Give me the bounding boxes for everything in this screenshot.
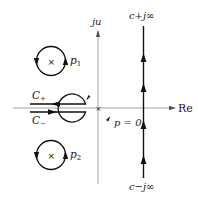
imag-axis-arrow-icon [96, 30, 100, 37]
imaginary-axis-label: ju [90, 16, 102, 27]
ccw-arrow-icon [106, 116, 111, 122]
pole-p1-label: p1 [70, 54, 81, 68]
bottom-limit-label: c−j∞ [129, 181, 154, 192]
up-arrow-icon [63, 151, 68, 159]
pole-marker-icon: × [48, 151, 56, 161]
pole-p2-label: p2 [70, 148, 81, 162]
left-arrow-icon [51, 101, 60, 106]
real-axis [13, 106, 176, 110]
up-arrow-icon [141, 83, 147, 92]
real-axis-label: Re [178, 102, 193, 115]
c-minus-label: C− [32, 114, 46, 128]
pole-p1-circle: × [34, 47, 68, 76]
real-axis-arrow-icon [169, 106, 176, 110]
origin-label: p = 0 [114, 117, 142, 128]
pole-p2-circle: × [34, 141, 68, 170]
contour-diagram: Re ju c+j∞ c−j∞ × C+ C− p = 0 × p1 × [0, 0, 198, 197]
down-arrow-icon [34, 152, 39, 160]
origin-marker-icon: × [96, 105, 102, 113]
up-arrow-icon [141, 155, 147, 164]
right-arrow-icon [48, 109, 57, 114]
top-limit-label: c+j∞ [129, 10, 154, 21]
bromwich-line [141, 26, 147, 178]
ccw-arrow-icon [86, 95, 90, 101]
up-arrow-icon [63, 57, 68, 65]
up-arrow-icon [141, 53, 147, 62]
down-arrow-icon [34, 58, 39, 66]
c-plus-label: C+ [32, 89, 46, 103]
pole-marker-icon: × [48, 57, 56, 67]
